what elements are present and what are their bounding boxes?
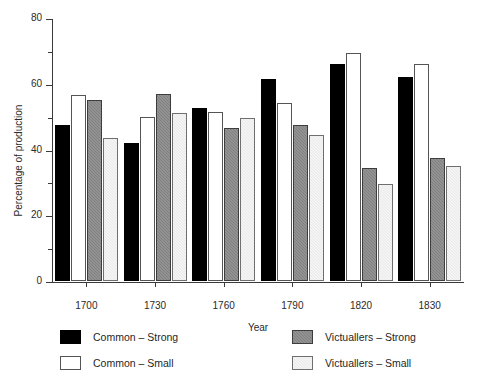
y-axis-tick: 0 [46, 282, 52, 283]
x-axis-tick [224, 282, 225, 287]
x-axis-tick-label: 1820 [326, 300, 396, 311]
y-axis-title: Percentage of production [13, 61, 24, 261]
bar[interactable] [430, 158, 445, 281]
y-axis-tick-label: 40 [31, 144, 42, 155]
x-axis-tick-label: 1700 [51, 300, 121, 311]
y-axis-minor-tick [48, 249, 52, 250]
bar-group [124, 18, 187, 281]
bar[interactable] [330, 64, 345, 281]
bar-group [398, 18, 461, 281]
bar[interactable] [55, 125, 70, 281]
legend-item[interactable]: Common – Small [60, 356, 174, 370]
plot-area: 020406080 170017301760179018201830 Year [52, 19, 464, 282]
y-axis-tick: 60 [46, 85, 52, 86]
bar[interactable] [309, 135, 324, 281]
bar[interactable] [172, 113, 187, 281]
x-axis-line [52, 282, 464, 283]
bar[interactable] [156, 94, 171, 281]
legend-label: Victuallers – Small [325, 357, 411, 369]
y-axis-tick-label: 80 [31, 12, 42, 23]
x-axis-tick [361, 282, 362, 287]
legend-label: Common – Strong [93, 331, 178, 343]
chart-legend: Common – StrongCommon – SmallVictuallers… [60, 330, 460, 378]
legend-item[interactable]: Victuallers – Small [292, 356, 411, 370]
legend-item[interactable]: Victuallers – Strong [292, 330, 416, 344]
y-axis-line [52, 19, 53, 283]
x-axis-tick-label: 1790 [257, 300, 327, 311]
bar[interactable] [346, 53, 361, 281]
x-axis-tick [292, 282, 293, 287]
bar[interactable] [87, 100, 102, 281]
bar-group [330, 18, 393, 281]
bar[interactable] [378, 184, 393, 281]
bar-group [261, 18, 324, 281]
bar-group [55, 18, 118, 281]
x-axis-tick [155, 282, 156, 287]
y-axis-tick: 40 [46, 151, 52, 152]
y-axis-tick-label: 60 [31, 78, 42, 89]
y-axis-tick: 20 [46, 216, 52, 217]
legend-label: Victuallers – Strong [325, 331, 416, 343]
y-axis-minor-tick [48, 183, 52, 184]
y-axis-minor-tick [48, 118, 52, 119]
legend-swatch [292, 330, 313, 344]
y-axis-tick: 80 [46, 19, 52, 20]
bar[interactable] [208, 112, 223, 281]
bar[interactable] [446, 166, 461, 281]
y-axis-tick-label: 20 [31, 209, 42, 220]
legend-swatch [60, 330, 81, 344]
x-axis-tick-label: 1760 [189, 300, 259, 311]
legend-item[interactable]: Common – Strong [60, 330, 178, 344]
x-axis-tick [430, 282, 431, 287]
bar[interactable] [277, 103, 292, 281]
bar-chart-figure: Percentage of production 020406080 17001… [0, 0, 480, 385]
bar[interactable] [240, 118, 255, 281]
legend-swatch [60, 356, 81, 370]
y-axis-tick-label: 0 [36, 275, 42, 286]
bar[interactable] [362, 168, 377, 281]
bar[interactable] [192, 108, 207, 281]
bar[interactable] [261, 79, 276, 281]
bar[interactable] [224, 128, 239, 281]
x-axis-tick-label: 1730 [120, 300, 190, 311]
y-axis-minor-tick [48, 52, 52, 53]
x-axis-tick [86, 282, 87, 287]
bar[interactable] [71, 95, 86, 281]
bar[interactable] [398, 77, 413, 281]
bar[interactable] [293, 125, 308, 281]
legend-swatch [292, 356, 313, 370]
bar[interactable] [124, 143, 139, 281]
bar[interactable] [414, 64, 429, 281]
x-axis-tick-label: 1830 [395, 300, 465, 311]
legend-label: Common – Small [93, 357, 174, 369]
bar[interactable] [140, 117, 155, 281]
bar[interactable] [103, 138, 118, 281]
bar-group [192, 18, 255, 281]
